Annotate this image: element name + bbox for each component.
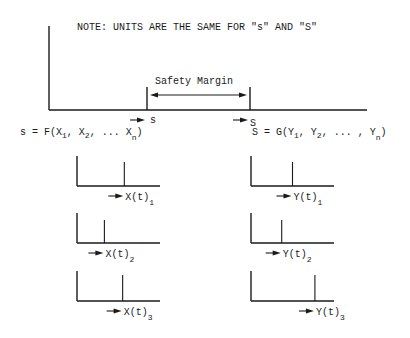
plot-label: X(t)1	[125, 192, 154, 207]
safety-margin-double-arrow	[150, 93, 247, 98]
plot-label: Y(t)1	[294, 192, 323, 207]
right-plot-2: Y(t)2	[251, 213, 334, 264]
plot-label: Y(t)2	[283, 249, 312, 264]
safety-margin-label: Safety Margin	[155, 76, 233, 87]
left-plot-1: X(t)1	[77, 156, 160, 207]
s-marker-label: s	[150, 115, 156, 126]
right-plot-1: Y(t)1	[251, 156, 334, 207]
S-marker-arrow-icon	[233, 118, 248, 123]
right-formula: S = G(Y1, Y2, ... , Yn)	[252, 127, 387, 142]
plot-arrow-icon	[299, 309, 314, 314]
note-text: NOTE: UNITS ARE THE SAME FOR "s" AND "S"	[77, 22, 317, 33]
plot-label: X(t)3	[124, 307, 153, 322]
plot-arrow-icon	[88, 251, 103, 256]
safety-margin-diagram: NOTE: UNITS ARE THE SAME FOR "s" AND "S"…	[0, 0, 410, 338]
plot-label: X(t)2	[105, 249, 134, 264]
plot-label: Y(t)3	[316, 307, 345, 322]
plot-arrow-icon	[107, 309, 122, 314]
plot-arrow-icon	[277, 194, 292, 199]
left-plot-2: X(t)2	[77, 213, 160, 264]
plot-arrow-icon	[108, 194, 123, 199]
subplots: X(t)1X(t)2X(t)3Y(t)1Y(t)2Y(t)3	[77, 156, 345, 322]
plot-arrow-icon	[266, 251, 281, 256]
left-formula: s = F(X1, X2, ... Xn)	[20, 127, 143, 142]
left-plot-3: X(t)3	[77, 271, 160, 322]
right-plot-3: Y(t)3	[251, 271, 345, 322]
s-marker-arrow-icon	[130, 118, 145, 123]
